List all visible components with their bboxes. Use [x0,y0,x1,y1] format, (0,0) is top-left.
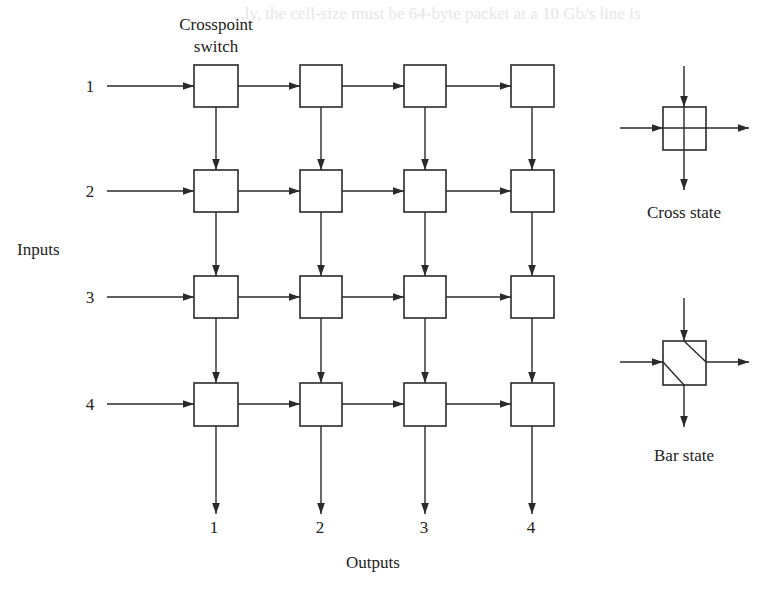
cross-state-label: Cross state [647,203,721,222]
crosspoint-3-4 [511,276,554,318]
output-arrows [216,426,532,514]
crosspoint-2-1 [194,170,238,212]
output-label-3: 3 [420,518,429,537]
input-label-3: 3 [86,288,95,307]
crosspoint-4-3 [404,383,446,426]
input-arrows [107,86,194,404]
outputs-label: Outputs [346,553,400,572]
crossbar-switch-diagram: Crosspoint switch Inputs 1 2 3 4 [0,0,770,590]
crosspoint-4-4 [511,383,554,426]
crosspoint-1-2 [300,65,342,107]
crosspoint-1-4 [511,65,554,107]
crosspoint-3-2 [300,276,342,318]
bar-state-icon [620,298,749,427]
input-label-1: 1 [86,77,95,96]
crosspoint-2-3 [404,170,446,212]
column-arrows [216,107,532,383]
crosspoint-1-1 [194,65,238,107]
crosspoint-3-1 [194,276,238,318]
crosspoint-switch-label-line1: Crosspoint [179,15,253,34]
crosspoint-grid [194,65,554,426]
crosspoint-4-1 [194,383,238,426]
crosspoint-3-3 [404,276,446,318]
output-label-2: 2 [316,518,325,537]
inputs-label: Inputs [17,240,60,259]
row-arrows [238,86,511,404]
crosspoint-2-2 [300,170,342,212]
crosspoint-4-2 [300,383,342,426]
cross-state-icon [620,66,749,190]
crosspoint-2-4 [511,170,554,212]
crosspoint-switch-label-line2: switch [194,37,239,56]
output-label-1: 1 [210,518,219,537]
input-label-2: 2 [86,182,95,201]
crosspoint-1-3 [404,65,446,107]
output-label-4: 4 [527,518,536,537]
input-label-4: 4 [86,395,95,414]
bar-state-label: Bar state [654,446,714,465]
